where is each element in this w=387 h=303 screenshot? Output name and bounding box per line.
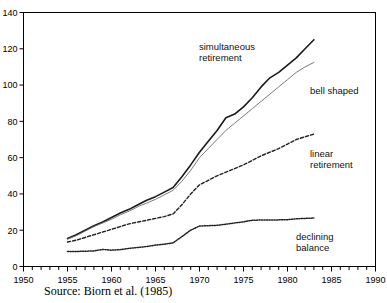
- x-axis-tick-label: 1980: [277, 275, 297, 285]
- series-label-line1: linear: [310, 148, 333, 159]
- y-axis-tick-label: 80: [7, 117, 17, 127]
- chart-figure: 0204060801001201401950195519601965197019…: [0, 0, 387, 303]
- x-axis-tick-label: 1970: [189, 275, 209, 285]
- x-axis-tick-label: 1965: [145, 275, 165, 285]
- series-label-declining-balance: decliningbalance: [296, 231, 334, 253]
- y-axis-tick-label: 120: [2, 44, 17, 54]
- x-axis-tick-label: 1950: [13, 275, 33, 285]
- y-axis-tick-label: 40: [7, 189, 17, 199]
- y-axis-tick-label: 140: [2, 8, 17, 18]
- x-axis-tick-label: 1960: [101, 275, 121, 285]
- series-label-line2: retirement: [310, 159, 353, 170]
- series-line-simultaneous-retirement: [68, 40, 314, 239]
- series-label-line1: bell shaped: [310, 85, 359, 96]
- x-axis-tick-label: 1975: [233, 275, 253, 285]
- series-label-linear-retirement: linearretirement: [310, 148, 353, 170]
- series-label-bell-shaped: bell shaped: [310, 85, 359, 96]
- series-line-linear-retirement: [68, 134, 314, 242]
- x-axis-tick-label: 1990: [365, 275, 385, 285]
- y-axis-tick-label: 20: [7, 226, 17, 236]
- series-label-line2: balance: [296, 242, 329, 253]
- y-axis-tick-label: 100: [2, 80, 17, 90]
- series-label-simultaneous-retirement: simultaneousretirement: [199, 41, 255, 63]
- series-label-line1: simultaneous: [199, 41, 255, 52]
- x-axis-tick-label: 1955: [57, 275, 77, 285]
- series-line-bell-shaped: [68, 62, 314, 239]
- y-axis-tick-label: 0: [12, 262, 17, 272]
- x-axis-tick-label: 1985: [321, 275, 341, 285]
- series-line-declining-balance: [68, 218, 314, 251]
- source-caption: Source: Biorn et al. (1985): [44, 284, 172, 299]
- series-label-line2: retirement: [199, 52, 242, 63]
- series-label-line1: declining: [296, 231, 334, 242]
- y-axis-tick-label: 60: [7, 153, 17, 163]
